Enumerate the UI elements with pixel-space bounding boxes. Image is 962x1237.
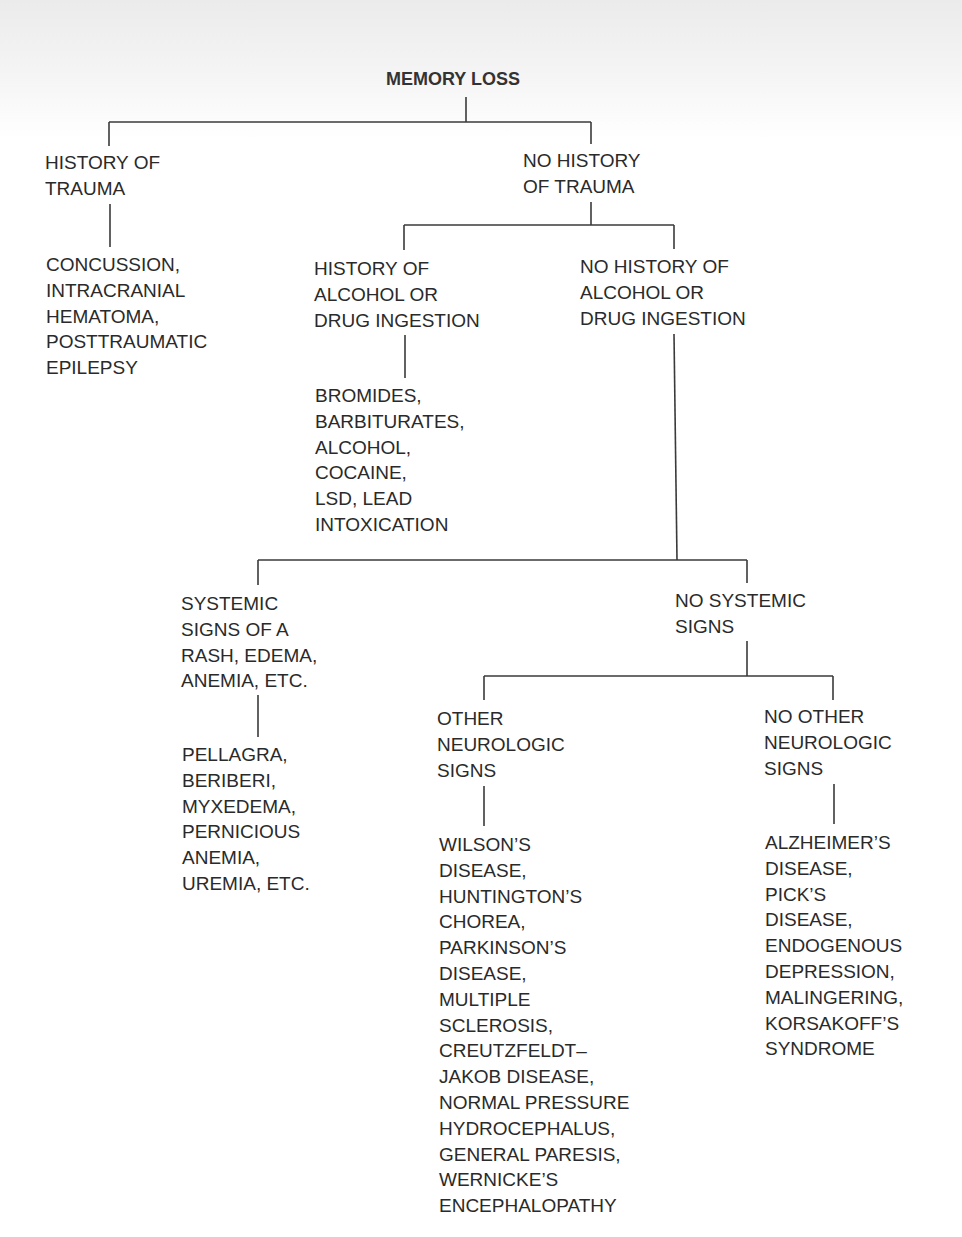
node-systemic-causes: PELLAGRA, BERIBERI, MYXEDEMA, PERNICIOUS… — [182, 742, 310, 897]
node-no-other-neurologic-signs: NO OTHER NEUROLOGIC SIGNS — [764, 704, 892, 781]
node-history-of-alcohol: HISTORY OF ALCOHOL OR DRUG INGESTION — [314, 256, 480, 333]
node-no-neurologic-causes: ALZHEIMER’S DISEASE, PICK’S DISEASE, END… — [765, 830, 903, 1062]
node-no-history-of-alcohol: NO HISTORY OF ALCOHOL OR DRUG INGESTION — [580, 254, 746, 331]
node-no-systemic-signs: NO SYSTEMIC SIGNS — [675, 588, 806, 640]
node-neurologic-causes: WILSON’S DISEASE, HUNTINGTON’S CHOREA, P… — [439, 832, 629, 1219]
node-alcohol-causes: BROMIDES, BARBITURATES, ALCOHOL, COCAINE… — [315, 383, 465, 538]
node-no-history-of-trauma: NO HISTORY OF TRAUMA — [523, 148, 641, 200]
connector-no-alcohol-stem — [674, 334, 677, 560]
node-trauma-causes: CONCUSSION, INTRACRANIAL HEMATOMA, POSTT… — [46, 252, 207, 381]
node-history-of-trauma: HISTORY OF TRAUMA — [45, 150, 160, 202]
node-systemic-signs: SYSTEMIC SIGNS OF A RASH, EDEMA, ANEMIA,… — [181, 591, 317, 694]
diagram-title: MEMORY LOSS — [386, 69, 520, 90]
node-other-neurologic-signs: OTHER NEUROLOGIC SIGNS — [437, 706, 565, 783]
